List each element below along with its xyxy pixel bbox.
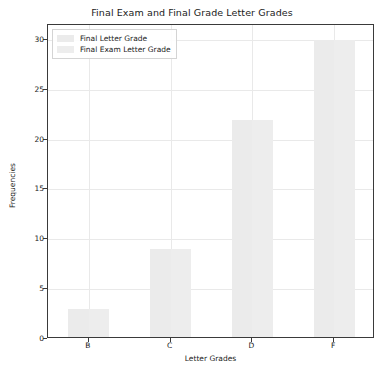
x-tick-label-f: F (318, 341, 348, 350)
y-tick-label: 5 (16, 284, 44, 293)
bar-d-series-2 (252, 120, 272, 338)
legend-swatch-icon (57, 35, 74, 42)
bar-d-series-1 (232, 120, 252, 338)
y-tick-label: 0 (16, 334, 44, 343)
x-tick-mark (251, 338, 252, 342)
bar-c-series-2 (171, 249, 191, 338)
bar-b-series-1 (68, 309, 88, 338)
x-tick-label-d: D (236, 341, 266, 350)
x-tick-mark (170, 338, 171, 342)
bar-c-series-1 (150, 249, 170, 338)
y-tick-label: 25 (16, 84, 44, 93)
gridline-vertical (89, 25, 90, 337)
x-axis-label: Letter Grades (47, 354, 374, 363)
x-tick-label-c: C (155, 341, 185, 350)
legend-item: Final Exam Letter Grade (57, 44, 171, 55)
legend-label: Final Letter Grade (80, 33, 147, 44)
x-tick-mark (333, 338, 334, 342)
bar-f-series-2 (334, 40, 354, 338)
chart-legend: Final Letter GradeFinal Exam Letter Grad… (52, 29, 177, 59)
y-tick-mark (43, 338, 47, 339)
legend-item: Final Letter Grade (57, 33, 171, 44)
plot-area (47, 24, 374, 338)
bar-f-series-1 (314, 40, 334, 338)
chart-figure: Final Exam and Final Grade Letter Grades… (0, 0, 384, 371)
legend-label: Final Exam Letter Grade (80, 44, 171, 55)
y-tick-label: 15 (16, 184, 44, 193)
bar-b-series-2 (89, 309, 109, 338)
y-tick-label: 10 (16, 234, 44, 243)
x-tick-label-b: B (73, 341, 103, 350)
x-tick-mark (88, 338, 89, 342)
y-tick-label: 30 (16, 34, 44, 43)
legend-swatch-icon (57, 46, 74, 53)
chart-title: Final Exam and Final Grade Letter Grades (0, 7, 384, 18)
y-tick-label: 20 (16, 134, 44, 143)
